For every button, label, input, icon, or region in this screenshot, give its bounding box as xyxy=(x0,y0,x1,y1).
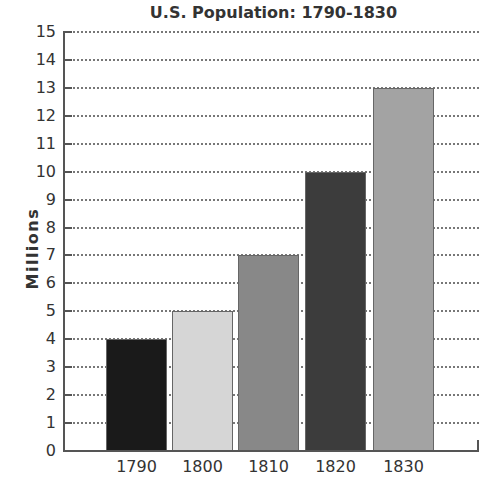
y-tick-mark xyxy=(64,366,72,368)
x-tick-label: 1790 xyxy=(104,457,170,476)
x-tick-label: 1830 xyxy=(371,457,437,476)
x-tick-label: 1810 xyxy=(236,457,302,476)
y-tick-label: 4 xyxy=(20,331,56,347)
x-axis-line xyxy=(63,450,479,452)
y-tick-mark xyxy=(64,143,72,145)
y-tick-label: 6 xyxy=(20,275,56,291)
y-tick-mark xyxy=(64,59,72,61)
y-tick-mark xyxy=(64,171,72,173)
y-tick-label: 14 xyxy=(20,52,56,68)
y-tick-mark xyxy=(64,115,72,117)
bar-chart: U.S. Population: 1790-1830 Millions 0123… xyxy=(0,0,487,483)
chart-title: U.S. Population: 1790-1830 xyxy=(0,3,487,22)
x-axis-end-tick xyxy=(477,440,479,452)
bar-1790 xyxy=(106,339,167,451)
y-tick-label: 7 xyxy=(20,247,56,263)
y-tick-mark xyxy=(64,199,72,201)
bar-1800 xyxy=(172,311,233,451)
y-tick-mark xyxy=(64,254,72,256)
y-tick-label: 2 xyxy=(20,387,56,403)
y-tick-label: 8 xyxy=(20,220,56,236)
y-tick-mark xyxy=(64,422,72,424)
y-tick-mark xyxy=(64,338,72,340)
y-tick-label: 0 xyxy=(20,443,56,459)
y-tick-label: 1 xyxy=(20,415,56,431)
gridline xyxy=(66,59,479,61)
y-tick-mark xyxy=(64,282,72,284)
y-tick-label: 13 xyxy=(20,80,56,96)
y-tick-label: 5 xyxy=(20,303,56,319)
y-tick-label: 9 xyxy=(20,192,56,208)
x-tick-label: 1800 xyxy=(170,457,236,476)
y-tick-label: 3 xyxy=(20,359,56,375)
y-axis-line xyxy=(63,31,65,452)
x-tick-label: 1820 xyxy=(303,457,369,476)
bar-1810 xyxy=(238,255,299,451)
bar-1820 xyxy=(305,172,366,451)
y-tick-label: 10 xyxy=(20,164,56,180)
y-tick-mark xyxy=(64,87,72,89)
y-tick-label: 12 xyxy=(20,108,56,124)
y-tick-mark xyxy=(64,31,72,33)
y-tick-mark xyxy=(64,394,72,396)
y-tick-mark xyxy=(64,310,72,312)
y-tick-label: 15 xyxy=(20,24,56,40)
gridline xyxy=(66,31,479,33)
bar-1830 xyxy=(373,88,434,451)
y-tick-label: 11 xyxy=(20,136,56,152)
y-tick-mark xyxy=(64,227,72,229)
